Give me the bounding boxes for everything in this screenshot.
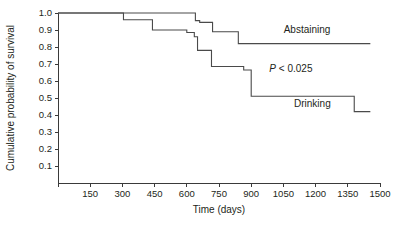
series-label-drinking: Drinking [294, 98, 331, 109]
y-axis-title: Cumulative probability of survival [5, 25, 16, 171]
y-tick-label: 1.0 [39, 7, 52, 18]
y-tick-label: 0.2 [39, 143, 52, 154]
y-tick-label: 0.3 [39, 126, 52, 137]
x-tick-group: 1503004506007509001050120013501500 [58, 183, 391, 199]
series-label-abstaining: Abstaining [284, 24, 331, 35]
x-tick-label: 750 [211, 188, 227, 199]
x-tick-label: 1050 [273, 188, 294, 199]
y-tick-label: 0.9 [39, 24, 52, 35]
x-tick-label: 1200 [305, 188, 326, 199]
km-plot-svg: 0.10.20.30.40.50.60.70.80.91.0 Cumulativ… [0, 0, 395, 233]
x-tick-label: 450 [147, 188, 163, 199]
y-tick-group: 0.10.20.30.40.50.60.70.80.91.0 [39, 7, 58, 171]
x-tick-label: 900 [243, 188, 259, 199]
y-tick-label: 0.7 [39, 58, 52, 69]
x-tick-label: 150 [82, 188, 98, 199]
p-value-text: < 0.025 [276, 63, 313, 74]
y-axis-group: 0.10.20.30.40.50.60.70.80.91.0 Cumulativ… [5, 7, 58, 183]
annotation-p-value: P < 0.025 [269, 63, 313, 74]
y-tick-label: 0.8 [39, 41, 52, 52]
y-tick-label: 0.1 [39, 160, 52, 171]
y-tick-label: 0.4 [39, 109, 52, 120]
x-axis-title: Time (days) [193, 204, 245, 215]
x-tick-label: 300 [114, 188, 130, 199]
annotations-group: P < 0.025 [269, 63, 313, 74]
x-tick-label: 600 [179, 188, 195, 199]
y-tick-label: 0.5 [39, 92, 52, 103]
survival-chart: 0.10.20.30.40.50.60.70.80.91.0 Cumulativ… [0, 0, 395, 233]
x-axis-group: 1503004506007509001050120013501500 Time … [58, 183, 391, 215]
x-tick-label: 1350 [337, 188, 358, 199]
x-tick-label: 1500 [369, 188, 390, 199]
y-tick-label: 0.6 [39, 75, 52, 86]
